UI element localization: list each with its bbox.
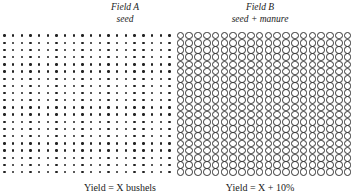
manure-circle-icon [185,133,194,140]
seed-dot-icon [130,61,139,68]
seed-dot-icon [96,97,105,104]
seed-dot-icon [78,125,87,132]
seed-dot-icon [43,125,52,132]
seed-dot-icon [35,46,44,53]
seed-dot-icon [87,133,96,140]
manure-circle-icon [229,169,238,176]
seed-dot-icon [156,147,165,154]
seed-dot-icon [70,154,79,161]
seed-dot-icon [122,104,131,111]
seed-dot-icon [61,46,70,53]
seed-dot-icon [52,54,61,61]
seed-dot-icon [122,97,131,104]
manure-circle-icon [334,97,343,104]
manure-circle-icon [246,61,255,68]
seed-dot-icon [43,104,52,111]
seed-dot-icon [26,75,35,82]
manure-circle-icon [211,97,220,104]
seed-dot-icon [26,90,35,97]
seed-dot-icon [35,147,44,154]
seed-dot-icon [87,68,96,75]
seed-dot-icon [61,104,70,111]
manure-circle-icon [220,54,229,61]
seed-dot-icon [17,133,26,140]
manure-circle-icon [273,54,282,61]
seed-dot-icon [148,118,157,125]
seed-dot-icon [35,61,44,68]
manure-circle-icon [185,61,194,68]
seed-dot-icon [0,54,9,61]
seed-dot-icon [70,104,79,111]
seed-dot-icon [9,32,18,39]
seed-dot-icon [26,111,35,118]
seed-dot-icon [122,90,131,97]
seed-dot-icon [122,75,131,82]
seed-dot-icon [113,169,122,176]
manure-circle-icon [282,169,291,176]
seed-dot-icon [78,61,87,68]
manure-circle-icon [229,133,238,140]
seed-dot-icon [122,111,131,118]
seed-dot-icon [139,54,148,61]
seed-dot-icon [26,54,35,61]
seed-dot-icon [52,147,61,154]
seed-dot-icon [130,125,139,132]
seed-dot-icon [78,97,87,104]
manure-circle-icon [185,169,194,176]
seed-dot-icon [9,118,18,125]
seed-dot-icon [122,32,131,39]
seed-dot-icon [70,118,79,125]
seed-dot-icon [130,75,139,82]
seed-dot-icon [26,133,35,140]
manure-circle-icon [264,61,273,68]
seed-dot-icon [43,82,52,89]
seed-dot-icon [113,111,122,118]
seed-dot-icon [130,154,139,161]
seed-dot-icon [96,46,105,53]
manure-circle-icon [211,133,220,140]
manure-circle-icon [299,133,308,140]
seed-dot-icon [87,154,96,161]
seed-dot-icon [165,68,174,75]
seed-dot-icon [9,75,18,82]
seed-dot-icon [26,147,35,154]
seed-dot-icon [52,133,61,140]
seed-dot-icon [87,125,96,132]
seed-dot-icon [35,169,44,176]
manure-circle-icon [220,169,229,176]
seed-dot-icon [52,154,61,161]
seed-dot-icon [104,82,113,89]
seed-dot-icon [35,104,44,111]
seed-dot-icon [70,161,79,168]
seed-dot-icon [26,39,35,46]
manure-circle-icon [264,104,273,111]
seed-dot-icon [26,118,35,125]
seed-dot-icon [130,111,139,118]
seed-dot-icon [17,140,26,147]
seed-dot-icon [96,118,105,125]
seed-dot-icon [9,46,18,53]
seed-dot-icon [165,97,174,104]
seed-dot-icon [165,125,174,132]
seed-dot-icon [78,39,87,46]
seed-dot-icon [70,133,79,140]
field-a-grid [0,32,174,176]
seed-dot-icon [96,169,105,176]
seed-dot-icon [9,61,18,68]
seed-dot-icon [139,46,148,53]
seed-dot-icon [148,68,157,75]
seed-dot-icon [61,111,70,118]
manure-circle-icon [343,97,352,104]
seed-dot-icon [113,161,122,168]
manure-circle-icon [220,97,229,104]
manure-circle-icon [176,61,185,68]
seed-dot-icon [96,140,105,147]
seed-dot-icon [87,61,96,68]
manure-circle-icon [211,140,220,147]
manure-circle-icon [255,61,264,68]
seed-dot-icon [9,111,18,118]
manure-circle-icon [264,169,273,176]
manure-circle-icon [255,54,264,61]
seed-dot-icon [43,61,52,68]
manure-circle-icon [317,104,326,111]
